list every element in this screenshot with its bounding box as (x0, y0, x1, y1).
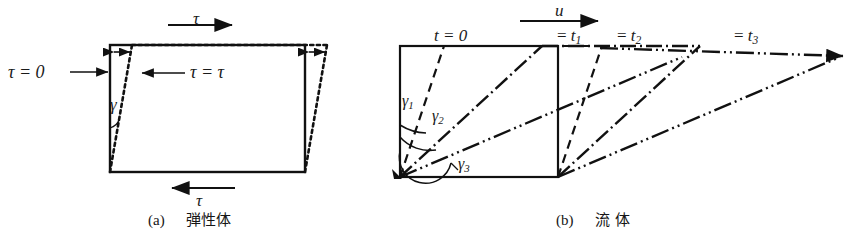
label-gamma-a: γ (110, 95, 117, 115)
label-t3-sub: 3 (753, 34, 759, 47)
label-gamma3-sub: 3 (464, 162, 469, 174)
caption-a: (a) 弾性体 (148, 208, 231, 229)
label-tau-equal: τ = τ (190, 62, 224, 83)
caption-b-index: (b) (556, 212, 574, 228)
label-t2: = t2 (617, 26, 641, 47)
gamma1-arc (400, 125, 426, 133)
label-t2-eq: = (617, 26, 627, 45)
caption-b: (b) 流 体 (556, 208, 630, 229)
figure-shear-deformation: τ = 0 τ τ τ = τ γ (a) 弾性体 u t = 0 = t1 =… (0, 0, 845, 240)
t3-sheared-edge-right (558, 57, 840, 177)
label-t1-sub: 1 (576, 34, 582, 47)
panel-a-group (70, 25, 327, 188)
diagram-canvas (0, 0, 845, 240)
label-tau-top: τ (193, 9, 199, 29)
label-gamma1-sub: 1 (408, 99, 413, 111)
t3-sheared-top (600, 48, 843, 56)
label-u-velocity: u (555, 1, 564, 21)
label-t2-sub: 2 (636, 34, 642, 47)
label-t3: = t3 (734, 26, 758, 47)
label-t1: = t1 (557, 26, 581, 47)
deformed-edge-right (305, 45, 327, 172)
caption-a-index: (a) (148, 212, 165, 228)
caption-b-text: 流 体 (595, 211, 630, 229)
label-tau-zero: τ = 0 (8, 62, 45, 83)
label-t0: t = 0 (434, 26, 467, 46)
gamma3-leader (451, 163, 458, 170)
label-gamma2-sub: 2 (438, 114, 443, 126)
label-gamma1: γ1 (402, 92, 414, 111)
fluid-rectangle (400, 46, 558, 177)
caption-a-text: 弾性体 (186, 211, 231, 229)
label-t3-eq: = (734, 26, 744, 45)
label-gamma2: γ2 (432, 107, 444, 126)
label-t1-eq: = (557, 26, 567, 45)
label-gamma3: γ3 (458, 155, 470, 174)
